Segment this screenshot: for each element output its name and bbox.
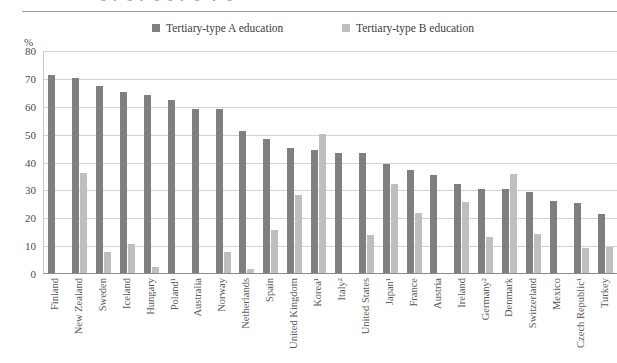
x-label-cell: Sweden	[91, 276, 115, 363]
bar-tertiary-type-b[interactable]	[224, 252, 231, 273]
bar-group[interactable]	[187, 51, 211, 273]
bar-group[interactable]	[92, 51, 116, 273]
bar-group[interactable]	[68, 51, 92, 273]
bar-group[interactable]	[522, 51, 546, 273]
bar-tertiary-type-b[interactable]	[606, 247, 613, 273]
bar-tertiary-type-a[interactable]	[120, 92, 127, 273]
x-label-cell: New Zealand	[67, 276, 91, 363]
bar-tertiary-type-b[interactable]	[152, 267, 159, 273]
bar-tertiary-type-a[interactable]	[48, 75, 55, 273]
x-label-cell: Japan¹	[378, 276, 402, 363]
bar-tertiary-type-a[interactable]	[287, 148, 294, 273]
bar-tertiary-type-b[interactable]	[415, 213, 422, 273]
bar-tertiary-type-a[interactable]	[216, 109, 223, 273]
x-axis-label: Finland	[50, 278, 61, 310]
bar-group[interactable]	[259, 51, 283, 273]
bar-tertiary-type-a[interactable]	[478, 189, 485, 273]
x-axis-label: France	[409, 278, 420, 307]
x-axis-label: Norway	[217, 278, 228, 312]
clipped-caption: g y g y g g y gi y gi	[0, 0, 617, 9]
bar-tertiary-type-b[interactable]	[319, 134, 326, 273]
bar-tertiary-type-a[interactable]	[335, 153, 342, 273]
bar-group[interactable]	[235, 51, 259, 273]
x-label-cell: Czech Republic¹	[569, 276, 593, 363]
bar-group[interactable]	[331, 51, 355, 273]
bar-tertiary-type-a[interactable]	[502, 189, 509, 273]
bar-tertiary-type-a[interactable]	[239, 131, 246, 273]
top-divider-rule	[22, 11, 617, 12]
bar-group[interactable]	[498, 51, 522, 273]
bar-group[interactable]	[211, 51, 235, 273]
bar-tertiary-type-a[interactable]	[526, 192, 533, 273]
x-label-cell: Denmark	[498, 276, 522, 363]
x-axis-label: New Zealand	[74, 278, 85, 334]
bar-group[interactable]	[593, 51, 617, 273]
bar-group[interactable]	[402, 51, 426, 273]
bar-groups	[44, 51, 617, 273]
bar-group[interactable]	[545, 51, 569, 273]
x-axis-label: Denmark	[504, 278, 515, 317]
bar-group[interactable]	[426, 51, 450, 273]
bar-tertiary-type-b[interactable]	[128, 244, 135, 273]
bar-group[interactable]	[569, 51, 593, 273]
x-axis-label: United Kingdom	[289, 278, 300, 349]
bar-tertiary-type-a[interactable]	[72, 78, 79, 273]
x-axis-label: Mexico	[552, 278, 563, 310]
bar-tertiary-type-a[interactable]	[192, 109, 199, 273]
x-label-cell: Germany²	[474, 276, 498, 363]
bar-tertiary-type-a[interactable]	[574, 203, 581, 273]
bar-tertiary-type-a[interactable]	[168, 100, 175, 273]
bar-tertiary-type-a[interactable]	[598, 214, 605, 273]
clipped-caption-text: g y g y g g y gi y gi	[100, 0, 240, 2]
x-label-cell: France	[402, 276, 426, 363]
bar-group[interactable]	[44, 51, 68, 273]
x-label-cell: Netherlands	[234, 276, 258, 363]
bar-tertiary-type-b[interactable]	[534, 234, 541, 273]
bar-tertiary-type-b[interactable]	[582, 248, 589, 273]
bar-tertiary-type-a[interactable]	[550, 201, 557, 273]
legend-item-tertiary-type-b: Tertiary-type B education	[342, 22, 474, 34]
x-label-cell: United Kingdom	[282, 276, 306, 363]
bar-tertiary-type-a[interactable]	[454, 184, 461, 273]
bar-tertiary-type-b[interactable]	[295, 195, 302, 273]
bar-group[interactable]	[354, 51, 378, 273]
bar-tertiary-type-a[interactable]	[311, 150, 318, 273]
bar-tertiary-type-a[interactable]	[407, 170, 414, 273]
x-label-cell: Italy²	[330, 276, 354, 363]
x-axis-label: Germany²	[480, 278, 491, 320]
bar-tertiary-type-b[interactable]	[271, 230, 278, 273]
bar-tertiary-type-a[interactable]	[96, 86, 103, 273]
bar-tertiary-type-a[interactable]	[430, 175, 437, 273]
bar-group[interactable]	[378, 51, 402, 273]
bar-tertiary-type-a[interactable]	[144, 95, 151, 273]
legend-label-tertiary-type-b: Tertiary-type B education	[356, 22, 474, 34]
bar-tertiary-type-b[interactable]	[104, 252, 111, 273]
bar-tertiary-type-b[interactable]	[391, 184, 398, 273]
bar-tertiary-type-b[interactable]	[486, 237, 493, 273]
x-axis-label: Ireland	[456, 278, 467, 308]
bar-tertiary-type-b[interactable]	[510, 174, 517, 273]
bar-tertiary-type-a[interactable]	[383, 164, 390, 273]
bar-tertiary-type-b[interactable]	[80, 173, 87, 273]
y-tick-40: 40	[25, 157, 36, 169]
bar-tertiary-type-a[interactable]	[263, 139, 270, 273]
bar-group[interactable]	[140, 51, 164, 273]
x-axis-label: Iceland	[121, 278, 132, 309]
bar-tertiary-type-a[interactable]	[359, 153, 366, 273]
bar-tertiary-type-b[interactable]	[462, 202, 469, 273]
bar-group[interactable]	[474, 51, 498, 273]
x-axis-label: Czech Republic¹	[576, 278, 587, 348]
legend-swatch-tertiary-type-a	[152, 24, 160, 32]
bar-group[interactable]	[116, 51, 140, 273]
x-label-cell: Mexico	[545, 276, 569, 363]
x-axis-label: Austria	[432, 278, 443, 309]
bar-group[interactable]	[450, 51, 474, 273]
chart-legend: Tertiary-type A education Tertiary-type …	[0, 22, 617, 38]
bar-group[interactable]	[163, 51, 187, 273]
bar-tertiary-type-b[interactable]	[367, 235, 374, 273]
y-tick-30: 30	[25, 184, 36, 196]
x-axis-label: Korea¹	[313, 278, 324, 307]
bar-group[interactable]	[307, 51, 331, 273]
bar-group[interactable]	[283, 51, 307, 273]
bar-tertiary-type-b[interactable]	[247, 269, 254, 273]
